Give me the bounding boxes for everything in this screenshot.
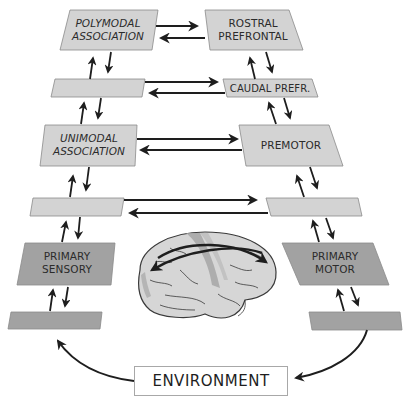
right-middle-relay-box [266,198,362,216]
premotor-box [239,125,343,166]
environment-box: ENVIRONMENT [134,366,288,396]
environment-label: ENVIRONMENT [152,372,269,390]
rostral-prefrontal-box [205,10,303,50]
left-middle-relay-box [30,198,124,216]
right-lower-relay-box [309,312,402,330]
polymodal-association-box [60,10,158,50]
left-upper-relay-box [51,79,145,97]
brain-illustration [139,232,276,318]
left-lower-relay-box [8,312,102,329]
unimodal-association-box [40,125,137,166]
caudal-prefrontal-box [223,79,318,97]
primary-motor-box [282,243,389,285]
perception-action-diagram [0,0,411,407]
horizontal-connections [124,26,268,213]
primary-sensory-box [17,243,115,285]
